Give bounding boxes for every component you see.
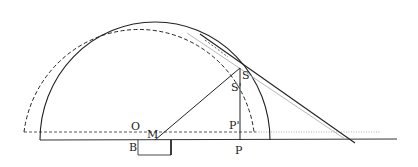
baseline (40, 139, 397, 140)
label-S-prime: S' (231, 81, 242, 94)
tangent-line (200, 34, 355, 143)
light-tangent-line (187, 33, 345, 139)
label-B: B (129, 141, 137, 154)
base-box (138, 140, 171, 155)
dashed-arc (24, 29, 254, 132)
geometry-diagram: O M B S S' P' P (0, 0, 418, 167)
label-M: M (147, 128, 158, 141)
label-O: O (131, 120, 140, 133)
label-S: S (242, 69, 250, 82)
radius-line-MS (155, 68, 240, 140)
dashed-segment (205, 40, 228, 57)
label-P: P (235, 144, 243, 157)
label-P-prime: P' (229, 119, 239, 132)
